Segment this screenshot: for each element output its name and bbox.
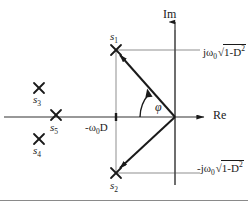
upper-imag-exponent: 2 [241, 44, 245, 53]
lower-imag-radical: √1-D2 [215, 160, 244, 174]
lower-imag-radicand-lead: 1-D [222, 162, 239, 174]
damping-suffix: D [100, 121, 108, 133]
pole-zero-plot-figure: Im Re s1 s2 s3 s4 s5 -ω0D jω0√1-D2 -jω0√… [0, 0, 248, 201]
lower-imag-prefix: -j [197, 162, 204, 174]
damping-abscissa-label: -ω0D [85, 122, 108, 136]
lower-imag-exponent: 2 [239, 160, 243, 169]
pole-marker-s4 [34, 134, 44, 144]
pole-label-s5: s5 [50, 122, 58, 136]
pole-label-s3: s3 [33, 94, 41, 108]
pole-label-s2: s2 [110, 180, 118, 194]
pole-markers [34, 45, 121, 178]
pole-label-s2-sub: 2 [114, 185, 118, 194]
pole-marker-s3 [34, 83, 44, 93]
pole-label-s4: s4 [33, 145, 41, 159]
upper-imag-radical: √1-D2 [217, 44, 246, 58]
damping-omega: ω [89, 121, 96, 133]
pole-marker-s5 [51, 110, 61, 120]
pole-label-s1: s1 [110, 31, 118, 45]
lower-imag-value-label: -jω0√1-D2 [197, 160, 244, 176]
pole-label-s3-sub: 3 [37, 99, 41, 108]
angle-label-phi: φ [155, 101, 162, 113]
imaginary-axis-label: Im [163, 8, 176, 20]
vector-to-s2 [120, 117, 175, 168]
upper-imag-radicand-lead: 1-D [224, 46, 241, 58]
pole-label-s1-sub: 1 [114, 36, 118, 45]
pole-vectors [120, 55, 175, 168]
real-axis-label: Re [213, 109, 226, 121]
lower-imag-radicand: 1-D2 [221, 160, 244, 174]
pole-label-s4-sub: 4 [37, 150, 41, 159]
pole-label-s5-sub: 5 [54, 127, 58, 136]
angle-arc-phi [140, 89, 153, 117]
upper-imag-value-label: jω0√1-D2 [203, 44, 246, 60]
upper-imag-radicand: 1-D2 [223, 44, 246, 58]
lower-imag-omega: ω [204, 162, 211, 174]
vector-to-s1 [120, 55, 175, 117]
